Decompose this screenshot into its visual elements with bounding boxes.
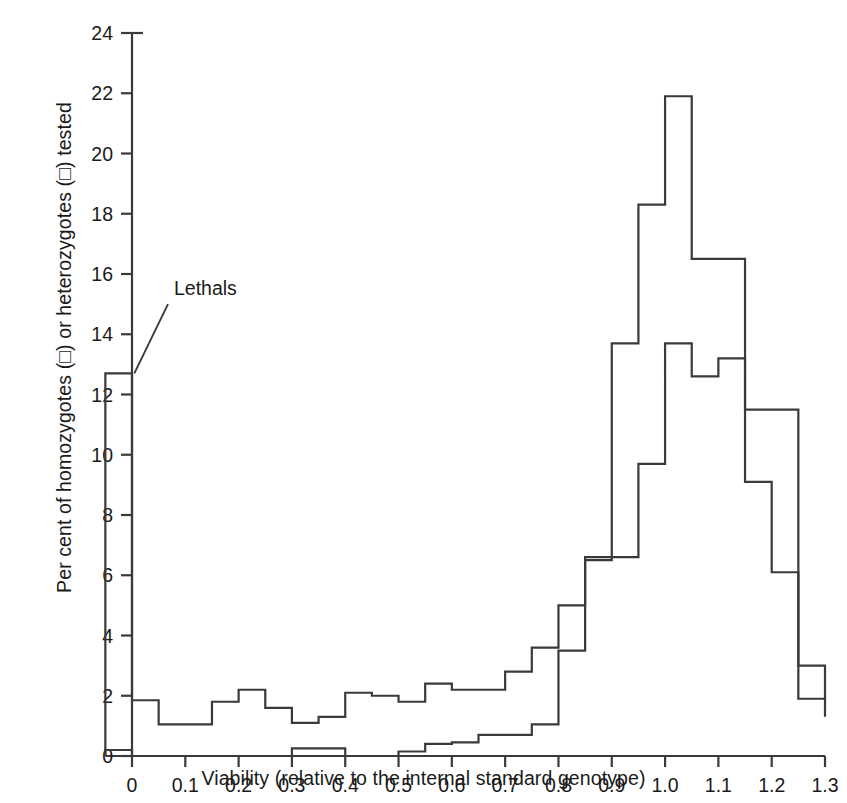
axes: 02468101214161820222400.10.20.30.40.50.6… [91, 22, 838, 796]
y-axis-tick-label: 18 [91, 203, 113, 225]
chart-figure: 02468101214161820222400.10.20.30.40.50.6… [0, 0, 847, 803]
y-axis-tick-label: 24 [91, 22, 113, 44]
series-lines [105, 96, 825, 756]
y-axis-tick-label: 22 [91, 82, 113, 104]
y-axis-tick-label: 0 [102, 745, 113, 767]
annotations: Lethals [134, 277, 237, 373]
y-axis-tick-label: 6 [102, 564, 113, 586]
annotation-label-lethals: Lethals [174, 277, 237, 299]
y-axis-tick-label: 8 [102, 504, 113, 526]
x-axis-label: Viability (relative to the internal stan… [0, 767, 847, 790]
y-axis-tick-label: 2 [102, 685, 113, 707]
series-step-homozygotes [105, 343, 825, 756]
y-axis-tick-label: 14 [91, 323, 113, 345]
y-axis-tick-label: 4 [102, 625, 113, 647]
y-axis-tick-label: 10 [91, 444, 113, 466]
annotation-leader-line [134, 304, 168, 373]
y-axis-label: Per cent of homozygotes (□) or heterozyg… [53, 0, 76, 698]
y-axis-tick-label: 20 [91, 143, 113, 165]
y-axis-tick-label: 16 [91, 263, 113, 285]
histogram-plot: 02468101214161820222400.10.20.30.40.50.6… [0, 0, 847, 803]
series-step-heterozygotes [105, 96, 825, 756]
y-axis-tick-label: 12 [91, 384, 113, 406]
